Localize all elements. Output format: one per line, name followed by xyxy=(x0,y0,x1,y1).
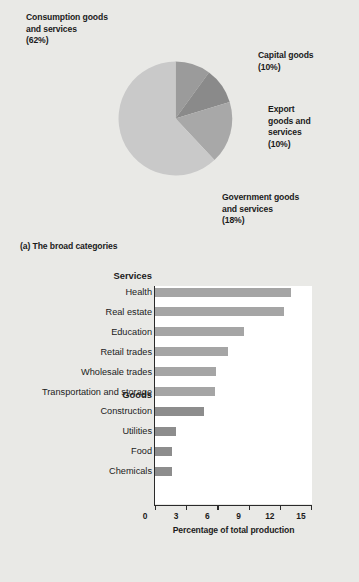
panel-b-bar-chart: ServicesHealthReal estateEducationRetail… xyxy=(0,268,359,568)
panel-a-pie-chart: Consumption goods and services (62%) Cap… xyxy=(0,0,359,262)
bar-group-header: Goods xyxy=(0,389,312,401)
pie-svg xyxy=(118,61,233,176)
bar-group-header: Services xyxy=(0,270,312,282)
bar-row-label: Retail trades xyxy=(100,346,152,358)
bar[interactable] xyxy=(155,407,204,416)
bar-row[interactable]: Retail trades xyxy=(0,346,312,358)
x-tick-label: 15 xyxy=(291,511,311,521)
bar-row[interactable]: Education xyxy=(0,326,312,338)
bar-row-label: Food xyxy=(131,445,152,457)
y-axis-line xyxy=(154,286,155,506)
pie-label-consumption-value: (62%) xyxy=(26,35,146,47)
bar-row[interactable]: Chemicals xyxy=(0,465,312,477)
bar[interactable] xyxy=(155,427,176,436)
pie-label-consumption: Consumption goods and services (62%) xyxy=(26,12,146,47)
x-tick xyxy=(311,506,312,510)
bar-row-label: Utilities xyxy=(122,425,152,437)
x-tick xyxy=(217,506,218,510)
bar-row-label: Wholesale trades xyxy=(81,366,152,378)
x-tick-label: 12 xyxy=(260,511,280,521)
x-tick-label: 3 xyxy=(166,511,186,521)
bar-row[interactable]: Health xyxy=(0,286,312,298)
bar[interactable] xyxy=(155,288,291,297)
bar-row[interactable]: Real estate xyxy=(0,306,312,318)
pie-label-consumption-line1: Consumption goods xyxy=(26,12,146,24)
pie-label-export-line3: services xyxy=(268,127,354,139)
bar[interactable] xyxy=(155,447,172,456)
x-axis-line xyxy=(154,505,312,506)
pie-chart xyxy=(118,61,233,176)
bar-row-label: Chemicals xyxy=(109,465,152,477)
bar-row-label: Construction xyxy=(100,405,152,417)
bar-group-label: Services xyxy=(113,270,152,282)
pie-label-government-value: (18%) xyxy=(222,215,352,227)
bar-row[interactable]: Construction xyxy=(0,405,312,417)
bar[interactable] xyxy=(155,347,228,356)
x-tick xyxy=(249,506,250,510)
bar-row-label: Health xyxy=(125,286,152,298)
x-tick-label: 0 xyxy=(135,511,155,521)
x-tick-label: 6 xyxy=(197,511,217,521)
pie-label-export: Export goods and services (10%) xyxy=(268,104,354,150)
bar-row-label: Real estate xyxy=(106,306,152,318)
x-tick xyxy=(155,506,156,510)
bar[interactable] xyxy=(155,367,216,376)
bar-row-label: Education xyxy=(111,326,152,338)
x-tick-label: 9 xyxy=(229,511,249,521)
pie-label-export-line1: Export xyxy=(268,104,354,116)
x-tick xyxy=(280,506,281,510)
panel-a-caption: (a) The broad categories xyxy=(20,241,117,251)
bar[interactable] xyxy=(155,307,284,316)
pie-label-capital-value: (10%) xyxy=(258,62,356,74)
pie-label-capital: Capital goods (10%) xyxy=(258,50,356,73)
pie-label-government: Government goods and services (18%) xyxy=(222,192,352,227)
economy-production-figure: Consumption goods and services (62%) Cap… xyxy=(0,0,359,582)
bar[interactable] xyxy=(155,327,244,336)
x-axis-title: Percentage of total production xyxy=(155,525,312,535)
pie-label-government-line1: Government goods xyxy=(222,192,352,204)
bar[interactable] xyxy=(155,467,172,476)
bar-row[interactable]: Food xyxy=(0,445,312,457)
pie-label-export-value: (10%) xyxy=(268,139,354,151)
bar-row[interactable]: Utilities xyxy=(0,425,312,437)
pie-label-capital-line1: Capital goods xyxy=(258,50,356,62)
bar-row[interactable]: Wholesale trades xyxy=(0,366,312,378)
pie-label-export-line2: goods and xyxy=(268,116,354,128)
pie-label-consumption-line2: and services xyxy=(26,24,146,36)
bar-group-label: Goods xyxy=(122,389,152,401)
x-tick xyxy=(186,506,187,510)
pie-label-government-line2: and services xyxy=(222,204,352,216)
